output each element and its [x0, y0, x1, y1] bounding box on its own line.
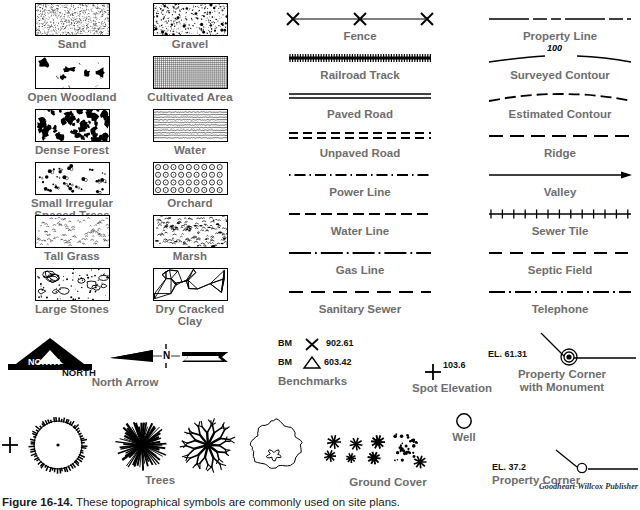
- line-symbol-label: Railroad Track: [285, 69, 435, 82]
- hatch-symbol-cell: Large Stones: [16, 268, 128, 315]
- hatch-symbol-label: Gravel: [134, 38, 246, 50]
- line-symbol-label: Paved Road: [285, 108, 435, 121]
- line-symbol-cell: Railroad Track: [285, 47, 435, 82]
- benchmark-cross-icon: [304, 336, 320, 352]
- benchmark-prefix-2: BM: [278, 357, 292, 367]
- hatch-swatch-orchard: [153, 162, 228, 195]
- trees-block: Trees: [0, 412, 320, 487]
- line-symbol-art-waterline: [285, 203, 435, 225]
- monument-elevation-value: EL. 61.31: [488, 349, 527, 359]
- hatch-symbol-label: Water: [134, 144, 246, 156]
- hatch-swatch-grass: [35, 215, 110, 248]
- line-symbol-cell: Ridge: [485, 125, 635, 160]
- figure-caption-text: These topographical symbols are commonly…: [76, 496, 400, 508]
- line-symbol-cell: Sewer Tile: [485, 203, 635, 238]
- hatch-symbol-cell: Tall Grass: [16, 215, 128, 262]
- hatch-symbol-cell: Open Woodland: [16, 56, 128, 103]
- line-symbol-cell: Valley: [485, 164, 635, 199]
- hatch-symbol-label: Sand: [16, 38, 128, 50]
- line-symbol-art-septic: [485, 242, 635, 264]
- line-symbol-cell: Gas Line: [285, 242, 435, 277]
- figure-number: Figure 16-14.: [2, 496, 73, 508]
- line-symbol-art-unpaved: [285, 125, 435, 147]
- line-symbol-cell: Estimated Contour: [485, 86, 635, 121]
- line-symbol-cell: Unpaved Road: [285, 125, 435, 160]
- line-symbol-label: Telephone: [485, 303, 635, 316]
- hatch-swatch-woodland: [35, 56, 110, 89]
- north-arrow-block: NORTH NORTH N North Arrow: [0, 330, 250, 389]
- hatch-swatch-clay: [153, 268, 228, 301]
- line-symbol-cell: Power Line: [285, 164, 435, 199]
- hatch-swatch-stones: [35, 268, 110, 301]
- line-symbol-art-railroad: [285, 47, 435, 69]
- line-symbol-label: Sanitary Sewer: [285, 303, 435, 316]
- line-symbol-art-paved: [285, 86, 435, 108]
- compass-n-letter: N: [163, 350, 170, 361]
- hatch-symbol-label: Dense Forest: [16, 144, 128, 156]
- property-corner-block: EL. 37.2 Property Corner: [492, 448, 640, 487]
- line-symbol-cell: Telephone: [485, 281, 635, 316]
- line-symbol-cell: Paved Road: [285, 86, 435, 121]
- spot-elevation-value: 103.6: [443, 360, 466, 370]
- well-block: Well: [432, 412, 496, 444]
- hatch-symbol-cell: Dry Cracked Clay: [134, 268, 246, 328]
- line-symbol-cell: Water Line: [285, 203, 435, 238]
- line-symbol-label: Septic Field: [485, 264, 635, 277]
- benchmark-value-2: 603.42: [324, 357, 352, 367]
- hatch-symbol-cell: Dense Forest: [16, 109, 128, 156]
- line-symbol-cell: Septic Field: [485, 242, 635, 277]
- line-symbol-art-telephone: [485, 281, 635, 303]
- line-symbol-art-estimated: [485, 86, 635, 108]
- line-symbol-label: Estimated Contour: [485, 108, 635, 121]
- hatch-swatch-smalltrees: [35, 162, 110, 195]
- line-symbol-art-sewertile: [485, 203, 635, 225]
- line-symbol-label: Sewer Tile: [485, 225, 635, 238]
- publisher-credit: Goodheart-Willcox Publisher: [539, 482, 638, 491]
- contour-elevation-annotation: 100: [547, 43, 562, 53]
- north-arrow-label: North Arrow: [0, 376, 250, 389]
- benchmarks-block: BM 902.61 BM 603.42 Benchmarks: [278, 336, 418, 388]
- line-symbol-label: Valley: [485, 186, 635, 199]
- line-symbol-art-fence: [285, 8, 435, 30]
- line-symbol-label: Power Line: [285, 186, 435, 199]
- hatch-swatch-cultivated: [153, 56, 228, 89]
- hatch-symbol-label: Tall Grass: [16, 250, 128, 262]
- property-corner-monument-block: EL. 61.31 Property Corner with Monument: [486, 332, 638, 393]
- hatch-symbol-label: Dry Cracked Clay: [134, 303, 246, 328]
- hatch-symbol-cell: Gravel: [134, 3, 246, 50]
- line-symbol-art-ridge: [485, 125, 635, 147]
- figure-caption: Figure 16-14. These topographical symbol…: [2, 496, 562, 509]
- north-label: NORTH: [62, 367, 96, 378]
- hatch-swatch-sand: [35, 3, 110, 36]
- line-symbol-label: Surveyed Contour: [485, 69, 635, 82]
- hatch-symbol-label: Marsh: [134, 250, 246, 262]
- line-symbol-label: Water Line: [285, 225, 435, 238]
- hatch-symbol-cell: Small Irregular Spaced Trees: [16, 162, 128, 222]
- line-symbol-art-sanitary: [285, 281, 435, 303]
- well-label: Well: [432, 431, 496, 444]
- hatch-swatch-marsh: [153, 215, 228, 248]
- benchmark-triangle-icon: [302, 355, 322, 370]
- well-circle-icon: [454, 412, 474, 430]
- line-symbol-art-surveyed: 100: [485, 47, 635, 69]
- line-symbol-art-property: [485, 8, 635, 30]
- property-corner-monument-label: Property Corner with Monument: [486, 368, 638, 393]
- benchmark-prefix-1: BM: [278, 338, 292, 348]
- hatch-swatch-water: [153, 109, 228, 142]
- line-symbol-label: Unpaved Road: [285, 147, 435, 160]
- hatch-swatch-gravel: [153, 3, 228, 36]
- line-symbol-cell: Property Line: [485, 8, 635, 43]
- line-symbol-art-power: [285, 164, 435, 186]
- hatch-symbol-label: Cultivated Area: [134, 91, 246, 103]
- hatch-symbol-cell: Marsh: [134, 215, 246, 262]
- line-symbol-label: Fence: [285, 30, 435, 43]
- hatch-swatch-forest: [35, 109, 110, 142]
- hatch-symbol-label: Open Woodland: [16, 91, 128, 103]
- line-symbol-art-gasline: [285, 242, 435, 264]
- property-corner-elevation-value: EL. 37.2: [492, 462, 526, 472]
- hatch-symbol-cell: Orchard: [134, 162, 246, 209]
- line-symbol-label: Property Line: [485, 30, 635, 43]
- topographic-symbols-figure: SandGravelOpen WoodlandCultivated AreaDe…: [0, 0, 640, 510]
- hatch-symbol-cell: Water: [134, 109, 246, 156]
- hatch-symbol-label: Orchard: [134, 197, 246, 209]
